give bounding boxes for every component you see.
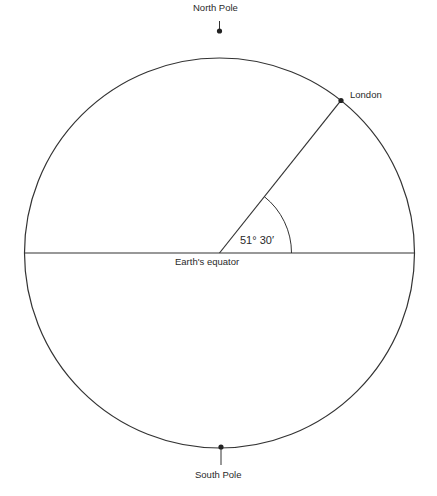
london-label: London bbox=[350, 89, 382, 100]
south-pole-dot bbox=[218, 444, 223, 449]
south-pole-label: South Pole bbox=[195, 469, 241, 480]
london-radius-line bbox=[220, 100, 342, 253]
latitude-diagram: North Pole London 51° 30′ Earth's equato… bbox=[0, 0, 437, 496]
angle-label: 51° 30′ bbox=[240, 234, 274, 246]
north-pole-dot bbox=[217, 28, 222, 33]
diagram-canvas bbox=[0, 0, 437, 496]
london-dot bbox=[338, 98, 343, 103]
north-pole-label: North Pole bbox=[193, 2, 238, 13]
equator-label: Earth's equator bbox=[175, 256, 239, 267]
